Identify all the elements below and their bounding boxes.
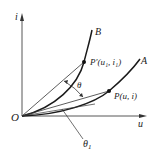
curve-b-label: B (95, 26, 101, 37)
origin-label: O (11, 111, 19, 123)
y-axis-label: i (15, 11, 18, 22)
theta1-leader (62, 109, 83, 139)
theta-label: θ (77, 80, 82, 90)
point-p (107, 89, 111, 93)
diagram-canvas: i u O B A P′(u₁, i₁) P(u, i) θ θ1 (0, 0, 159, 158)
point-p-prime (82, 60, 86, 64)
y-axis-arrow-icon (20, 13, 24, 21)
point-p-label: P(u, i) (113, 91, 137, 101)
y-axis (20, 13, 24, 116)
secant-op (22, 91, 109, 116)
curve-a-label: A (140, 55, 148, 66)
theta1-label: θ1 (83, 138, 91, 151)
curve-b (22, 30, 92, 116)
point-p-prime-label: P′(u₁, i₁) (89, 57, 121, 67)
x-axis-label: u (138, 118, 143, 129)
